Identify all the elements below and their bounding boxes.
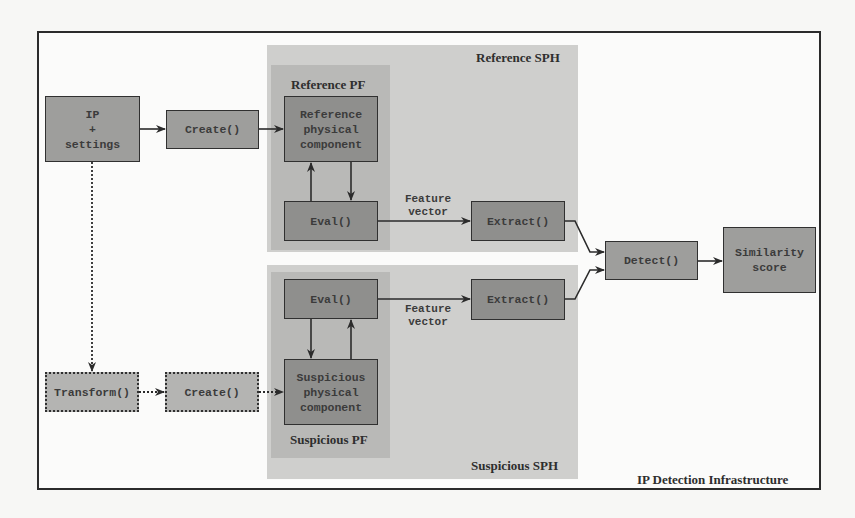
- create-node-bottom[interactable]: Create(): [165, 372, 259, 412]
- arrow-extract-susp-to-detect: [565, 270, 604, 299]
- suspicious-physical-component-node[interactable]: Suspicious physical component: [284, 359, 378, 425]
- create-node-top[interactable]: Create(): [166, 110, 259, 149]
- reference-physical-component-node[interactable]: Reference physical component: [284, 96, 378, 162]
- similarity-score-node[interactable]: Similarity score: [723, 227, 816, 293]
- eval-node-suspicious[interactable]: Eval(): [284, 279, 378, 319]
- arrow-extract-ref-to-detect: [565, 221, 604, 252]
- feature-vector-label-bottom: Feature vector: [392, 303, 464, 329]
- extract-node-reference[interactable]: Extract(): [471, 201, 565, 241]
- eval-node-reference[interactable]: Eval(): [284, 201, 378, 241]
- detect-node[interactable]: Detect(): [605, 241, 698, 280]
- transform-node[interactable]: Transform(): [45, 372, 139, 412]
- ip-settings-node[interactable]: IP + settings: [45, 96, 140, 162]
- extract-node-suspicious[interactable]: Extract(): [471, 279, 565, 320]
- feature-vector-label-top: Feature vector: [392, 193, 464, 219]
